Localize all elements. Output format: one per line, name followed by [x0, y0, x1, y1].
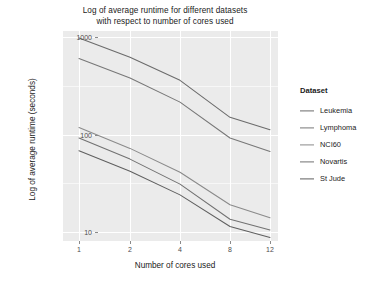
chart-title-line-1: Log of average runtime for different dat…	[40, 6, 290, 17]
chart-root: Log of average runtime for different dat…	[0, 0, 377, 292]
legend-line-swatch-icon	[299, 138, 315, 152]
y-tick-label-10: 10	[84, 229, 92, 236]
x-axis-title: Number of cores used	[79, 261, 271, 270]
x-tick-label-4: 4	[178, 246, 182, 253]
legend-item-label: Novartis	[320, 157, 347, 166]
series-line-novartis	[79, 138, 270, 230]
legend: Dataset LeukemiaLymphomaNCI60NovartisSt …	[299, 86, 375, 187]
x-tick-mark-12	[270, 241, 271, 244]
y-tick-mark-10	[95, 232, 98, 233]
legend-title: Dataset	[300, 86, 375, 95]
y-axis-title: Log of average runtime (seconds)	[28, 45, 37, 235]
legend-line-swatch-icon	[299, 104, 315, 118]
y-tick-label-100: 100	[80, 131, 92, 138]
x-tick-mark-4	[180, 241, 181, 244]
legend-line-swatch-icon	[299, 155, 315, 169]
legend-item-label: Leukemia	[320, 106, 352, 115]
legend-item-lymphoma[interactable]: Lymphoma	[299, 119, 375, 136]
legend-items: LeukemiaLymphomaNCI60NovartisSt Jude	[299, 102, 375, 187]
series-line-lymphoma	[79, 59, 270, 152]
plot-panel	[63, 31, 278, 241]
x-tick-label-2: 2	[128, 246, 132, 253]
legend-line-swatch-icon	[299, 172, 315, 186]
x-tick-mark-1	[79, 241, 80, 244]
legend-line-swatch-icon	[299, 121, 315, 135]
legend-item-novartis[interactable]: Novartis	[299, 153, 375, 170]
legend-item-nci60[interactable]: NCI60	[299, 136, 375, 153]
x-tick-label-1: 1	[77, 246, 81, 253]
y-tick-label-1000: 1000	[76, 34, 92, 41]
legend-item-label: NCI60	[320, 140, 341, 149]
legend-item-st-jude[interactable]: St Jude	[299, 170, 375, 187]
chart-title-line-2: with respect to number of cores used	[40, 17, 290, 28]
series-line-nci60	[79, 128, 270, 218]
legend-item-label: St Jude	[320, 174, 345, 183]
series-line-st-jude	[79, 151, 270, 238]
series-line-leukemia	[79, 38, 270, 130]
x-tick-mark-8	[230, 241, 231, 244]
series-lines	[63, 31, 278, 241]
y-tick-mark-1000	[95, 37, 98, 38]
x-tick-label-12: 12	[266, 246, 274, 253]
legend-item-label: Lymphoma	[320, 123, 356, 132]
x-tick-mark-2	[130, 241, 131, 244]
y-tick-mark-100	[95, 135, 98, 136]
x-tick-label-8: 8	[228, 246, 232, 253]
chart-title: Log of average runtime for different dat…	[40, 6, 290, 27]
legend-item-leukemia[interactable]: Leukemia	[299, 102, 375, 119]
